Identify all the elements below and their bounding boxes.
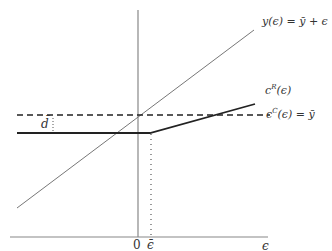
origin-label: 0 [133,239,141,251]
x-axis-label: ϵ [262,240,269,251]
constant-consumption-rest: (ϵ) = ȳ [278,108,315,121]
risky-consumption-label: cR(ϵ) [265,84,291,96]
constant-consumption-label: cC(ϵ) = ȳ [266,108,315,120]
risky-consumption-arg: (ϵ) [276,84,291,97]
diagram-canvas [0,0,332,251]
income-line-label: y(ϵ) = ȳ + ϵ [262,16,328,27]
debt-level-label: d̄ [41,118,49,130]
threshold-label: ϵ̄ [147,239,154,251]
